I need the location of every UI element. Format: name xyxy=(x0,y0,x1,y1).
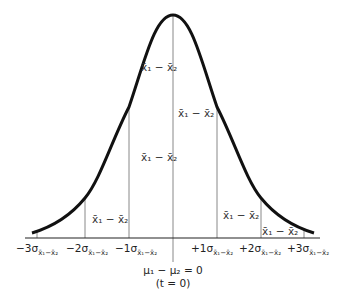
tick-subscript: x̄₁−x̄₂ xyxy=(309,249,329,257)
t-zero-label: (t = 0) xyxy=(143,277,202,290)
tick-label-plus3: +3σx̄₁−x̄₂ xyxy=(287,243,329,257)
region-label-center-right-mid: x̄₁ − x̄₂ xyxy=(178,108,214,119)
tick-label-minus3: −3σx̄₁−x̄₂ xyxy=(16,243,58,257)
tick-label-minus1: −1σx̄₁−x̄₂ xyxy=(115,243,157,257)
tick-subscript: x̄₁−x̄₂ xyxy=(137,249,157,257)
tick-prefix: −1σ xyxy=(115,242,137,254)
center-mean-label: μ₁ − μ₂ = 0 (t = 0) xyxy=(143,264,202,290)
mean-difference-label: μ₁ − μ₂ = 0 xyxy=(143,264,202,277)
tick-label-minus2: −2σx̄₁−x̄₂ xyxy=(66,243,108,257)
tick-label-plus1: +1σx̄₁−x̄₂ xyxy=(191,243,233,257)
tick-subscript: x̄₁−x̄₂ xyxy=(88,249,108,257)
tick-label-plus2: +2σx̄₁−x̄₂ xyxy=(239,243,281,257)
region-label-center-left-upper: x̄₁ − x̄₂ xyxy=(141,62,177,73)
tick-prefix: +2σ xyxy=(239,242,261,254)
tick-prefix: −3σ xyxy=(16,242,38,254)
tick-subscript: x̄₁−x̄₂ xyxy=(213,249,233,257)
region-label-right-mid: x̄₁ − x̄₂ xyxy=(223,210,259,221)
region-label-left-tail: x̄₁ − x̄₂ xyxy=(92,214,128,225)
normal-curve-diagram: x̄₁ − x̄₂ x̄₁ − x̄₂ x̄₁ − x̄₂ x̄₁ − x̄₂ … xyxy=(0,0,338,299)
region-label-right-tail: x̄₁ − x̄₂ xyxy=(262,226,298,237)
tick-prefix: −2σ xyxy=(66,242,88,254)
tick-subscript: x̄₁−x̄₂ xyxy=(38,249,58,257)
tick-prefix: +3σ xyxy=(287,242,309,254)
tick-prefix: +1σ xyxy=(191,242,213,254)
region-label-center-left-mid: x̄₁ − x̄₂ xyxy=(141,152,177,163)
tick-subscript: x̄₁−x̄₂ xyxy=(261,249,281,257)
